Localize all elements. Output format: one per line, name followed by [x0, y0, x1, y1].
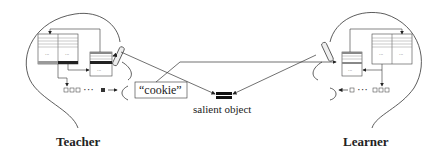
svg-text:...: ...: [97, 66, 101, 72]
salient-object-label: salient object: [193, 103, 251, 115]
teacher-agent: ... ... ... ··· Teacher: [26, 13, 131, 149]
learner-input-sequence: ···: [339, 83, 389, 95]
learner-sensor-icon: [321, 42, 334, 62]
utterance-box: “cookie”: [135, 82, 187, 98]
teacher-output-sequence: ···: [64, 83, 117, 95]
teacher-mouth-bracket: [122, 86, 128, 100]
svg-text:...: ...: [348, 66, 352, 72]
svg-text:···: ···: [357, 83, 368, 95]
teacher-memory-table: ... ...: [38, 34, 78, 64]
svg-text:...: ...: [399, 50, 403, 56]
learner-agent: ... ... ... ··· Learner: [313, 12, 421, 149]
learner-mouth-curve: [313, 62, 322, 80]
teacher-small-table: ...: [90, 52, 112, 76]
language-game-diagram: ... ... ... ··· Teacher: [0, 0, 446, 150]
teacher-sensor-icon: [112, 46, 125, 66]
salient-object: salient object: [193, 92, 251, 115]
utterance-text: “cookie”: [139, 83, 182, 97]
learner-label: Learner: [343, 134, 389, 149]
svg-text:...: ...: [65, 50, 69, 56]
teacher-label: Teacher: [56, 134, 101, 149]
teacher-mouth-curve: [122, 62, 131, 80]
learner-small-table: ...: [342, 52, 362, 76]
svg-text:...: ...: [379, 50, 383, 56]
learner-memory-table: ... ...: [372, 34, 412, 64]
learner-ear-bracket: [330, 88, 336, 100]
svg-text:···: ···: [83, 83, 94, 95]
svg-text:...: ...: [45, 50, 49, 56]
